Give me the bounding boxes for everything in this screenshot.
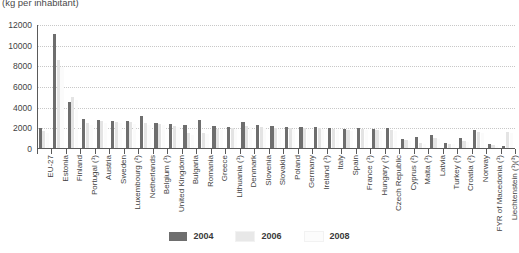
bar-2008	[437, 139, 440, 148]
x-label: Belgium (¹)	[163, 155, 171, 194]
x-label: Cyprus (²)	[410, 155, 418, 191]
bar-group	[415, 25, 429, 148]
bar-2008	[176, 127, 179, 148]
legend-label-2004: 2004	[193, 232, 213, 241]
bar-group	[444, 25, 458, 148]
x-tick	[51, 149, 52, 154]
bar-2008	[234, 129, 237, 148]
bar-group	[270, 25, 284, 148]
bar-2006	[129, 122, 132, 148]
bar-group	[52, 25, 66, 148]
bar-group	[226, 25, 240, 148]
bar-2006	[216, 129, 219, 148]
bar-2008	[133, 124, 136, 148]
bar-2004	[97, 120, 100, 148]
bar-group	[429, 25, 443, 148]
x-tick	[501, 149, 502, 154]
bar-2006	[231, 128, 234, 148]
bar-2006	[187, 133, 190, 148]
x-label: Germany	[308, 155, 316, 188]
bar-2006	[448, 144, 451, 148]
bar-group	[197, 25, 211, 148]
x-tick	[341, 149, 342, 154]
bar-2006	[71, 97, 74, 148]
bar-2004	[212, 126, 215, 148]
bar-group	[487, 25, 501, 148]
bar-2006	[303, 128, 306, 148]
legend-item-2006[interactable]: 2006	[235, 231, 281, 242]
bar-2006	[346, 130, 349, 148]
bar-2004	[488, 144, 491, 148]
bar-group	[96, 25, 110, 148]
x-label: Portugal (¹)	[91, 155, 99, 195]
bar-2008	[191, 135, 194, 148]
x-tick	[356, 149, 357, 154]
bar-2008	[466, 142, 469, 148]
bar-group	[299, 25, 313, 148]
x-tick	[283, 149, 284, 154]
x-tick	[414, 149, 415, 154]
legend-item-2004[interactable]: 2004	[169, 232, 213, 241]
x-label: Poland	[294, 155, 302, 180]
y-tick-label: 12000	[8, 21, 32, 30]
bar-2006	[144, 123, 147, 148]
legend-item-2008[interactable]: 2008	[304, 231, 350, 242]
bar-group	[386, 25, 400, 148]
bar-2004	[473, 130, 476, 148]
x-label: Luxembourg (²)	[134, 155, 142, 210]
x-label: United Kingdom	[178, 155, 186, 212]
bar-2006	[419, 143, 422, 148]
bar-2008	[452, 144, 455, 148]
bar-2004	[241, 122, 244, 148]
bar-group	[502, 25, 516, 148]
x-label: Latvia	[439, 155, 447, 176]
bar-2008	[263, 128, 266, 148]
chart-legend: 200420062008	[0, 231, 519, 242]
bar-2008	[278, 129, 281, 148]
x-tick	[269, 149, 270, 154]
y-tick-label: 8000	[13, 62, 32, 71]
bar-group	[473, 25, 487, 148]
x-label: Italy	[337, 155, 345, 170]
bar-2008	[307, 129, 310, 148]
x-label: Netherlands	[149, 155, 157, 198]
x-tick	[254, 149, 255, 154]
bar-2006	[158, 124, 161, 148]
y-tick-label: 4000	[13, 103, 32, 112]
bar-2006	[390, 130, 393, 148]
x-tick	[457, 149, 458, 154]
x-label: Lithuania (¹)	[236, 155, 244, 198]
bar-2006	[375, 130, 378, 148]
bar-2008	[162, 125, 165, 148]
bar-group	[371, 25, 385, 148]
x-label: Slovakia	[279, 155, 287, 185]
x-label: Estonia	[62, 155, 70, 182]
x-label: Croatia (²)	[467, 155, 475, 191]
bar-2008	[510, 133, 513, 148]
bar-2006	[245, 126, 248, 148]
plot-area	[37, 25, 515, 149]
x-label: Slovenia	[265, 155, 273, 186]
bar-group	[241, 25, 255, 148]
bar-2004	[270, 126, 273, 148]
bar-group	[357, 25, 371, 148]
x-tick	[138, 149, 139, 154]
bar-2006	[57, 60, 60, 148]
bar-2004	[372, 129, 375, 148]
bar-2006	[404, 140, 407, 148]
bar-2008	[118, 123, 121, 148]
bar-2006	[86, 123, 89, 148]
bar-2008	[104, 123, 107, 148]
bar-2004	[169, 124, 172, 148]
bar-2004	[140, 116, 143, 148]
x-tick	[124, 149, 125, 154]
x-label: Sweden	[120, 155, 128, 184]
bar-2004	[299, 127, 302, 148]
bar-2008	[220, 130, 223, 148]
chart-title: (kg per inhabitant)	[2, 0, 79, 8]
bar-2004	[328, 128, 331, 148]
bar-2008	[75, 100, 78, 148]
bar-2006	[260, 127, 263, 148]
bar-group	[139, 25, 153, 148]
bar-2006	[462, 141, 465, 148]
